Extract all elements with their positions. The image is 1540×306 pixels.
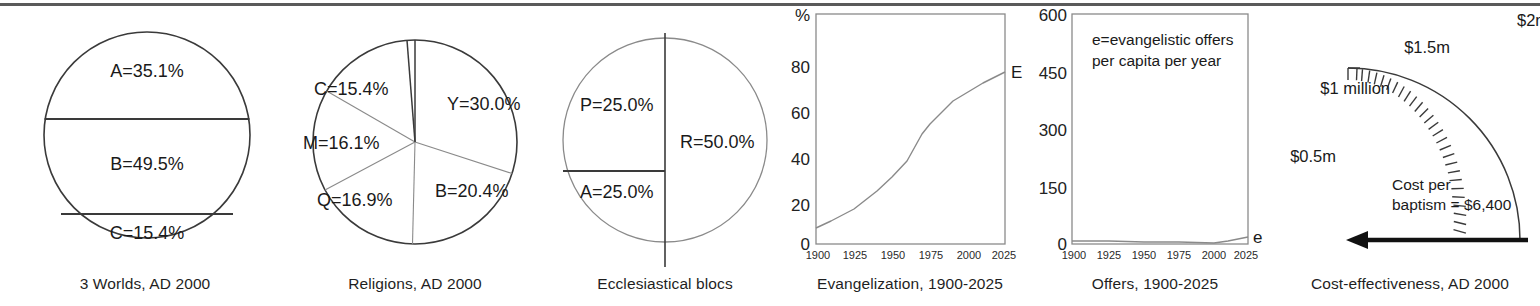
slice-label-y: Y=30.0%: [447, 94, 521, 114]
x-tick-1900: 1900: [1062, 249, 1086, 261]
gauge-label-2m: $2m: [1517, 11, 1540, 29]
caption-evangelization: Evangelization, 1900-2025: [790, 275, 1030, 293]
slice-label-c: C=15.4%: [110, 223, 185, 243]
panel-evangelization: % 80 60 40 20 0 1900 1925 1950 1975 2000…: [790, 0, 1030, 306]
caption-offers: Offers, 1900-2025: [1030, 275, 1280, 293]
x-tick-2000: 2000: [957, 249, 981, 261]
x-tick-2000: 2000: [1202, 249, 1226, 261]
slice-label-r: R=50.0%: [680, 132, 755, 152]
data-line-e: [816, 72, 1005, 228]
y-tick-150: 150: [1039, 179, 1067, 198]
gauge-label-1m: $1 million: [1320, 79, 1390, 97]
series-tag-e: e: [1253, 228, 1262, 247]
series-tag-e: E: [1011, 63, 1022, 82]
y-tick-600: 600: [1039, 6, 1067, 25]
slice-label-q: Q=16.9%: [317, 190, 393, 210]
slice-label-p: P=25.0%: [580, 95, 654, 115]
y-tick-40: 40: [791, 150, 810, 169]
slice-label-b: B=49.5%: [110, 154, 184, 174]
x-tick-1925: 1925: [1097, 249, 1121, 261]
slice-label-c: C=15.4%: [314, 79, 389, 99]
panel-offers: 600 450 300 150 0 1900 1925 1950 1975 20…: [1030, 0, 1280, 306]
chart-three-worlds: A=35.1% B=49.5% C=15.4%: [0, 0, 290, 270]
x-tick-2025: 2025: [992, 249, 1016, 261]
x-tick-2025: 2025: [1234, 249, 1258, 261]
slice-label-m: M=16.1%: [303, 133, 380, 153]
y-axis-unit: %: [795, 6, 810, 25]
chart-religions: Y=30.0% B=20.4% Q=16.9% M=16.1% C=15.4%: [290, 0, 540, 270]
caption-religions: Religions, AD 2000: [290, 275, 540, 293]
pie-radius-b-q: [413, 142, 416, 244]
pie-radius-c-y: [407, 40, 415, 142]
x-tick-1975: 1975: [1167, 249, 1191, 261]
note-line-2: baptism = $6,400: [1392, 196, 1512, 213]
x-tick-1950: 1950: [881, 249, 905, 261]
panel-religions: Y=30.0% B=20.4% Q=16.9% M=16.1% C=15.4% …: [290, 0, 540, 306]
annotation-line-1: e=evangelistic offers: [1092, 31, 1234, 48]
slice-label-a: A=35.1%: [110, 61, 184, 81]
chart-ecclesiastical-blocs: P=25.0% A=25.0% R=50.0%: [540, 0, 790, 270]
pie-radius-y-b: [415, 142, 512, 174]
gauge-label-15m: $1.5m: [1404, 38, 1450, 56]
annotation-line-2: per capita per year: [1092, 52, 1221, 69]
chart-offers: 600 450 300 150 0 1900 1925 1950 1975 20…: [1030, 0, 1280, 270]
plot-frame: [816, 14, 1005, 244]
x-tick-1950: 1950: [1132, 249, 1156, 261]
figure-strip: A=35.1% B=49.5% C=15.4% 3 Worlds, AD 200…: [0, 0, 1540, 306]
x-tick-1925: 1925: [843, 249, 867, 261]
gauge-needle: [1346, 231, 1528, 249]
caption-ecclesiastical-blocs: Ecclesiastical blocs: [540, 275, 790, 293]
x-tick-1975: 1975: [919, 249, 943, 261]
y-tick-450: 450: [1039, 64, 1067, 83]
caption-three-worlds: 3 Worlds, AD 2000: [0, 275, 290, 293]
y-tick-20: 20: [791, 196, 810, 215]
panel-cost-effectiveness: $0.5m $1 million $1.5m $2m Cost per bapt…: [1280, 0, 1540, 306]
y-tick-60: 60: [791, 104, 810, 123]
data-line-e: [1072, 237, 1248, 243]
y-tick-300: 300: [1039, 121, 1067, 140]
slice-label-b: B=20.4%: [435, 181, 509, 201]
note-line-1: Cost per: [1392, 176, 1451, 193]
panel-ecclesiastical-blocs: P=25.0% A=25.0% R=50.0% Ecclesiastical b…: [540, 0, 790, 306]
slice-label-a: A=25.0%: [580, 182, 654, 202]
plot-frame: [1072, 14, 1248, 244]
panel-three-worlds: A=35.1% B=49.5% C=15.4% 3 Worlds, AD 200…: [0, 0, 290, 306]
gauge-label-05m: $0.5m: [1290, 147, 1336, 165]
chart-evangelization: % 80 60 40 20 0 1900 1925 1950 1975 2000…: [790, 0, 1030, 270]
caption-cost-effectiveness: Cost-effectiveness, AD 2000: [1280, 275, 1540, 293]
x-tick-1900: 1900: [806, 249, 830, 261]
y-tick-80: 80: [791, 58, 810, 77]
chart-cost-effectiveness: $0.5m $1 million $1.5m $2m Cost per bapt…: [1280, 0, 1540, 270]
